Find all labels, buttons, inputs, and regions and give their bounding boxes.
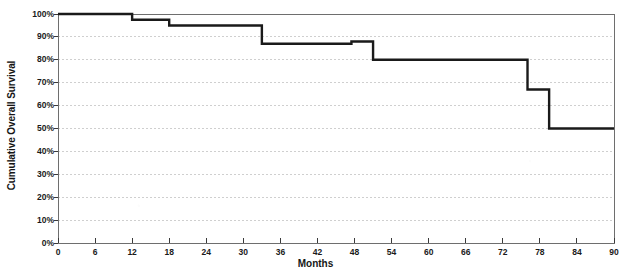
x-tick-label: 84 (562, 248, 592, 257)
x-tick-label: 24 (191, 248, 221, 257)
x-tick-label: 48 (340, 248, 370, 257)
x-tick-label: 78 (525, 248, 555, 257)
x-tick-label: 60 (414, 248, 444, 257)
survival-chart-figure: Cumulative Overall Survival 0%10%20%30%4… (0, 0, 631, 278)
x-tick-label: 30 (228, 248, 258, 257)
x-tick-label: 18 (154, 248, 184, 257)
x-axis-tick-labels: 061218243036424854606672788490 (0, 0, 631, 278)
x-tick-label: 0 (43, 248, 73, 257)
x-tick-label: 72 (488, 248, 518, 257)
x-tick-label: 90 (599, 248, 629, 257)
x-tick-label: 12 (117, 248, 147, 257)
x-axis-title-label: Months (298, 258, 334, 269)
x-tick-label: 42 (302, 248, 332, 257)
x-tick-label: 36 (265, 248, 295, 257)
x-tick-label: 54 (377, 248, 407, 257)
x-axis-title: Months (0, 258, 631, 269)
x-tick-label: 66 (451, 248, 481, 257)
x-tick-label: 6 (80, 248, 110, 257)
